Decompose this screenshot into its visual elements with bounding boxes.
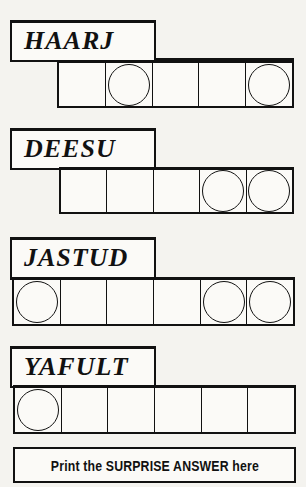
jumble-word-box: DEESU	[10, 128, 156, 170]
letter-cell-circled[interactable]	[199, 170, 245, 212]
letter-cell-circled[interactable]	[246, 280, 293, 324]
letter-cell[interactable]	[152, 63, 199, 106]
letter-cell[interactable]	[61, 388, 108, 432]
letter-cell[interactable]	[201, 388, 248, 432]
letter-cell-circled[interactable]	[246, 170, 292, 212]
letter-cell-circled[interactable]	[105, 63, 152, 106]
letter-cell-circled[interactable]	[200, 280, 247, 324]
jumble-word-box: HAARJ	[10, 20, 156, 62]
letter-cell[interactable]	[60, 280, 107, 324]
jumble-word: DEESU	[24, 134, 116, 164]
circle-marker-icon	[108, 64, 150, 106]
answer-cells	[57, 60, 294, 108]
letter-cell[interactable]	[106, 280, 153, 324]
jumble-word: HAARJ	[24, 26, 114, 56]
letter-cell[interactable]	[153, 280, 200, 324]
letter-cell[interactable]	[153, 170, 199, 212]
circle-marker-icon	[202, 170, 244, 212]
jumble-word-box: YAFULT	[10, 346, 156, 388]
circle-marker-icon	[248, 170, 290, 212]
letter-cell[interactable]	[59, 63, 105, 106]
circle-marker-icon	[249, 281, 291, 323]
surprise-answer-box[interactable]: Print the SURPRISE ANSWER here	[13, 447, 296, 483]
answer-cells	[13, 385, 296, 434]
letter-cell-circled[interactable]	[245, 63, 292, 106]
surprise-answer-label: Print the SURPRISE ANSWER here	[50, 457, 258, 474]
letter-cell[interactable]	[61, 170, 106, 212]
circle-marker-icon	[248, 64, 290, 106]
circle-marker-icon	[203, 281, 245, 323]
answer-cells	[12, 277, 295, 326]
jumble-word: YAFULT	[24, 352, 129, 382]
letter-cell[interactable]	[198, 63, 245, 106]
divider	[155, 58, 294, 61]
circle-marker-icon	[16, 281, 58, 323]
letter-cell[interactable]	[154, 388, 201, 432]
letter-cell[interactable]	[106, 170, 152, 212]
letter-cell[interactable]	[247, 388, 294, 432]
letter-cell-circled[interactable]	[15, 388, 61, 432]
letter-cell[interactable]	[107, 388, 154, 432]
circle-marker-icon	[17, 389, 59, 431]
jumble-word-box: JASTUD	[10, 237, 156, 280]
letter-cell-circled[interactable]	[14, 280, 60, 324]
jumble-word: JASTUD	[24, 243, 128, 273]
answer-cells	[59, 167, 294, 214]
